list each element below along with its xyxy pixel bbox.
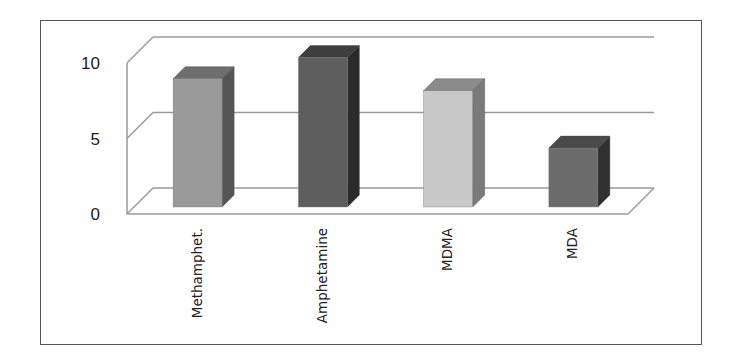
chart-bars [173, 46, 610, 207]
y-tick-label: 5 [91, 130, 100, 149]
x-axis-labels: Methamphet.AmphetamineMDMAMDA [189, 227, 581, 323]
x-category-label: MDA [564, 227, 580, 259]
x-category-label: Methamphet. [189, 228, 205, 318]
bar-amphetamine [298, 46, 359, 207]
bar-chart: 0510 Methamphet.AmphetamineMDMAMDA [0, 0, 737, 364]
y-tick-label: 0 [91, 205, 100, 224]
y-axis-ticks: 0510 [81, 54, 100, 224]
bar-methamphet [173, 67, 234, 207]
bar-mda [549, 136, 610, 207]
x-category-label: MDMA [439, 227, 455, 271]
y-tick-label: 10 [81, 54, 100, 73]
x-category-label: Amphetamine [314, 228, 330, 323]
bar-mdma [424, 79, 485, 207]
